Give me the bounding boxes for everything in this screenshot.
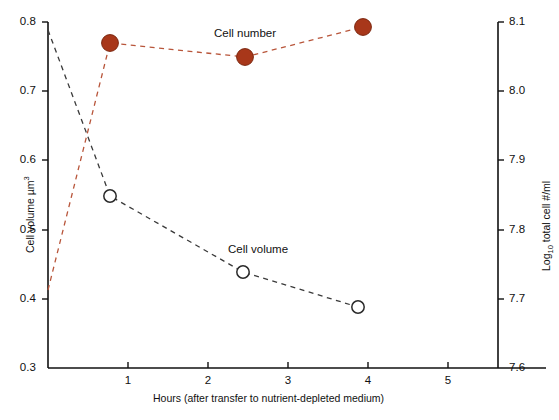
right-ytick-label-0: 8.1 — [509, 15, 549, 27]
xtick-label-2: 2 — [196, 374, 220, 386]
xtick-label-1: 1 — [116, 374, 140, 386]
xtick-label-3: 3 — [276, 374, 300, 386]
left-ytick-label-5: 0.3 — [2, 361, 36, 373]
xtick-label-4: 4 — [356, 374, 380, 386]
xtick-label-5: 5 — [436, 374, 460, 386]
x-axis-title: Hours (after transfer to nutrient-deplet… — [153, 392, 384, 404]
series-line-cell-volume — [48, 30, 358, 307]
left-ytick-label-1: 0.7 — [2, 84, 36, 96]
right-axis-title-text: Log — [540, 253, 552, 271]
right-ytick-label-1: 8.0 — [509, 84, 549, 96]
left-ytick-label-0: 0.8 — [2, 15, 36, 27]
right-axis-title-subscript: 10 — [546, 245, 555, 253]
annotation-cell-number: Cell number — [214, 27, 276, 39]
left-axis-ticks — [42, 22, 48, 299]
left-ytick-label-2: 0.6 — [2, 153, 36, 165]
annotation-cell-volume: Cell volume — [228, 243, 288, 255]
chart-figure: 0.8 0.7 0.6 0.5 0.4 0.3 8.1 8.0 7.9 7.8 … — [0, 0, 559, 420]
right-ytick-label-5: 7.6 — [509, 361, 549, 373]
series-markers-cell-number — [102, 19, 372, 66]
left-axis-title-text: Cell volume — [24, 195, 36, 253]
right-ytick-label-2: 7.9 — [509, 153, 549, 165]
chart-plot-area — [0, 0, 559, 420]
right-ytick-label-4: 7.7 — [509, 292, 549, 304]
left-axis-title: Cell volume µm3 — [22, 176, 36, 253]
left-axis-title-unit: µm — [24, 180, 36, 195]
right-axis-title: Log10 total cell #/ml — [540, 181, 555, 271]
right-axis-title-suffix: total cell #/ml — [540, 181, 552, 245]
right-axis-ticks — [498, 22, 504, 299]
left-ytick-label-4: 0.4 — [2, 292, 36, 304]
left-axis-title-exponent: 3 — [22, 176, 31, 180]
x-axis-ticks — [128, 362, 448, 368]
